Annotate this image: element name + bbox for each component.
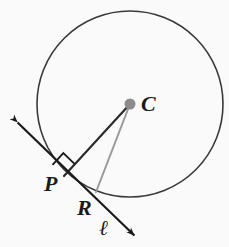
label-line-ell: ℓ <box>99 218 108 239</box>
label-tangent-point-p: P <box>44 173 57 195</box>
center-point-dot <box>125 99 136 110</box>
radius-center-to-p <box>64 104 130 176</box>
geometry-figure: C P R ℓ <box>0 0 229 247</box>
label-center-c: C <box>141 93 156 115</box>
segment-center-to-r <box>96 104 130 192</box>
label-point-r: R <box>77 197 92 219</box>
geometry-canvas <box>0 0 229 247</box>
